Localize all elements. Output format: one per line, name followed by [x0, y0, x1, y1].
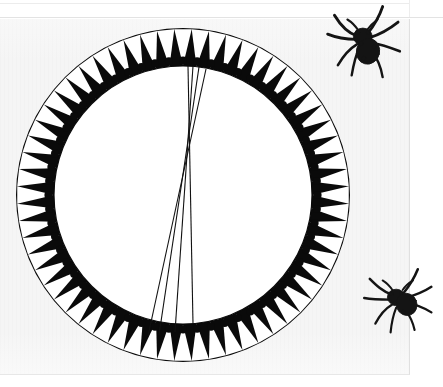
dial-tooth-bead: [51, 233, 59, 241]
dial-tooth-bead: [279, 281, 287, 289]
dial-tooth-bead: [151, 323, 159, 331]
dial-tooth-bead: [179, 56, 187, 64]
dial-tooth-bead: [311, 219, 319, 227]
dial-tooth-bead: [221, 63, 229, 71]
dial-tooth-bead: [165, 57, 173, 65]
dial-tooth-bead: [307, 149, 315, 157]
dial-tooth-bead: [288, 112, 296, 120]
dial-tooth-bead: [100, 82, 108, 90]
dial-tooth-bead: [56, 136, 64, 144]
dial-tooth-bead: [165, 325, 173, 333]
dial-tooth-bead: [246, 308, 254, 316]
dial-tooth-bead: [112, 74, 120, 82]
spider-specimen-mid-right: [354, 258, 440, 338]
dial-tooth-bead: [313, 205, 321, 213]
dial-tooth-bead: [56, 246, 64, 254]
dial-tooth-bead: [47, 163, 55, 171]
dial-tooth-bead: [221, 319, 229, 327]
dial-tooth-bead: [302, 246, 310, 254]
scan-top-right-edge: [409, 0, 410, 18]
dial-tooth-bead: [62, 258, 70, 266]
dial-tooth-bead: [314, 191, 322, 199]
dial-tooth-bead: [112, 308, 120, 316]
dial-tooth-bead: [124, 68, 132, 76]
dial-tooth-bead: [137, 63, 145, 71]
dial-tooth-bead: [124, 314, 132, 322]
dial-tooth-bead: [47, 219, 55, 227]
dial-tooth-bead: [288, 270, 296, 278]
dial-tooth-bead: [246, 74, 254, 82]
dial-tooth-bead: [70, 270, 78, 278]
dial-tooth-bead: [44, 191, 52, 199]
dial-tooth-bead: [302, 136, 310, 144]
dial-tooth-bead: [313, 177, 321, 185]
dial-tooth-bead: [234, 314, 242, 322]
dial-tooth-bead: [137, 319, 145, 327]
dial-tooth-bead: [179, 326, 187, 334]
dial-inner-disc: [54, 66, 312, 324]
dial-tooth-bead: [45, 177, 53, 185]
dial-tooth-bead: [70, 112, 78, 120]
dial-tooth-bead: [258, 300, 266, 308]
dial-tooth-bead: [89, 91, 97, 99]
spider-specimen-top-right: [316, 0, 408, 84]
dial-tooth-bead: [62, 124, 70, 132]
dial-ring-group: [16, 28, 350, 362]
dial-tooth-bead: [79, 101, 87, 109]
dial-tooth-bead: [258, 82, 266, 90]
dial-tooth-bead: [45, 205, 53, 213]
screenshot-stage: [0, 0, 443, 387]
dial-tooth-bead: [269, 91, 277, 99]
dial-tooth-bead: [234, 68, 242, 76]
dial-tooth-bead: [269, 291, 277, 299]
dial-tooth-bead: [89, 291, 97, 299]
dial-tooth-bead: [100, 300, 108, 308]
dial-tooth-bead: [307, 233, 315, 241]
dial-tooth-bead: [207, 59, 215, 67]
dial-tooth-bead: [279, 101, 287, 109]
dial-tooth-bead: [207, 323, 215, 331]
dial-tooth-bead: [193, 57, 201, 65]
dial-tooth-bead: [296, 258, 304, 266]
dial-tooth-bead: [311, 163, 319, 171]
dial-tooth-bead: [79, 281, 87, 289]
dial-tooth-bead: [151, 59, 159, 67]
dial-tooth-bead: [51, 149, 59, 157]
dial-tooth-bead: [296, 124, 304, 132]
dial-tooth-bead: [193, 325, 201, 333]
